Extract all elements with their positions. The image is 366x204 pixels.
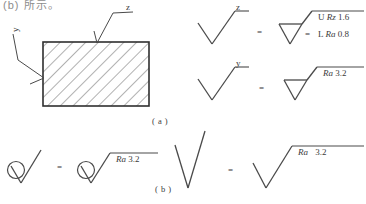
leader-y	[13, 34, 44, 84]
row-basic-left-symbol	[175, 131, 205, 188]
row-y-param: Ra	[323, 68, 333, 78]
part-label-b: ( b )	[155, 185, 172, 194]
row-y-number: 3.2	[335, 68, 346, 78]
row-y-value: Ra 3.2	[323, 69, 347, 78]
row-circle-number: 3.2	[128, 154, 139, 164]
leader-label-z: z	[126, 3, 130, 12]
row-basic-equals: =	[228, 166, 233, 175]
row-basic-number: 3.2	[315, 147, 326, 157]
leader-label-y: y	[11, 28, 20, 33]
leader-z	[94, 12, 133, 43]
row-circle-equals: =	[57, 163, 62, 172]
row-z-lower-param: Ra	[325, 29, 335, 39]
row-z-upper-number: 1.6	[338, 12, 349, 22]
figure-canvas	[0, 0, 366, 204]
row-y-left-symbol	[198, 67, 249, 100]
row-y-equals: =	[259, 84, 264, 93]
workpiece-rectangle	[43, 42, 149, 106]
row-z-lower-prefix: L	[318, 29, 323, 39]
row-z-upper-param: Rz	[327, 12, 336, 22]
row-z-upper-prefix: U	[318, 12, 325, 22]
row-z-lower-number: 0.8	[338, 29, 349, 39]
row-z-value-upper: U Rz 1.6	[318, 13, 349, 22]
row-z-value-lower: L Ra 0.8	[318, 30, 349, 39]
row-basic-param: Ra	[298, 147, 308, 157]
part-label-a: ( a )	[152, 117, 168, 126]
row-z-left-label: z	[236, 3, 240, 12]
row-basic-value: Ra 3.2	[298, 148, 327, 157]
row-z-equals: =	[257, 28, 262, 37]
row-y-left-label: y	[236, 59, 241, 68]
row-z-equals-2: =	[305, 30, 310, 39]
row-z-left-symbol	[198, 11, 249, 44]
row-circle-value: Ra 3.2	[116, 155, 140, 164]
row-circle-param: Ra	[116, 154, 126, 164]
surface-roughness-figure: (b) 所示。	[0, 0, 366, 204]
row-circle-left-symbol	[8, 150, 42, 183]
workpiece-cross-section	[13, 12, 149, 106]
